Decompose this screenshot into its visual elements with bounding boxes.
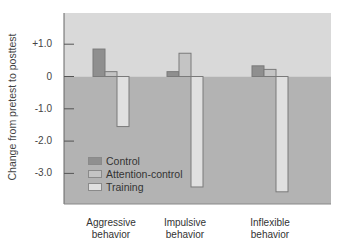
legend-item: Training	[88, 181, 182, 193]
plot-area	[0, 0, 347, 250]
bar	[191, 77, 203, 187]
y-tick-label: 0	[22, 71, 52, 82]
legend-label: Training	[106, 181, 144, 193]
bar	[264, 69, 276, 76]
bar	[276, 77, 288, 192]
legend-label: Attention-control	[106, 168, 182, 180]
x-tick-label: Inflexiblebehavior	[235, 217, 305, 241]
bar	[93, 49, 105, 76]
y-tick-label: -1.0	[22, 103, 52, 114]
y-tick-label: -2.0	[22, 135, 52, 146]
y-tick-label: -3.0	[22, 167, 52, 178]
y-tick-label: +1.0	[22, 38, 52, 49]
legend-label: Control	[106, 155, 140, 167]
legend-swatch	[88, 157, 102, 165]
bar	[167, 72, 179, 77]
bar	[117, 77, 129, 127]
x-tick-label: Impulsivebehavior	[150, 217, 220, 241]
legend-swatch	[88, 183, 102, 191]
x-tick-label: Aggressivebehavior	[76, 217, 146, 241]
bar-chart: Change from pretest to posttest +1.00-1.…	[0, 0, 347, 250]
bar	[252, 66, 264, 77]
bar	[105, 72, 117, 77]
y-axis-label: Change from pretest to posttest	[6, 32, 20, 182]
legend: ControlAttention-controlTraining	[88, 155, 182, 194]
legend-swatch	[88, 170, 102, 178]
bar	[179, 53, 191, 76]
legend-item: Attention-control	[88, 168, 182, 180]
legend-item: Control	[88, 155, 182, 167]
